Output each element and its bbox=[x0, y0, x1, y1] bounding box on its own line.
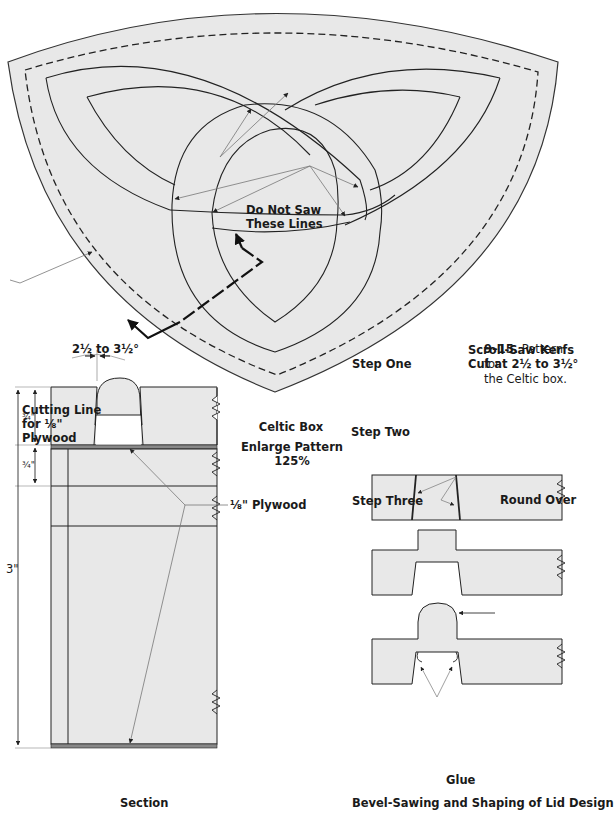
round-over-label: Round Over bbox=[500, 493, 576, 507]
do-not-saw-label: Do Not Saw These Lines bbox=[246, 203, 323, 231]
do-not-saw-line1: Do Not Saw bbox=[246, 203, 323, 217]
kerfs-label: Scroll-Saw Kerfs Cut at 2½ to 3½° bbox=[468, 343, 578, 371]
dim-top-label: ¾" bbox=[22, 410, 35, 424]
step-three-label: Step Three bbox=[352, 494, 423, 508]
plywood-label: ⅛" Plywood bbox=[230, 498, 306, 512]
cutting-line-leader bbox=[10, 252, 92, 283]
kerfs-line2: Cut at 2½ to 3½° bbox=[468, 357, 578, 371]
celtic-box-label: Celtic Box bbox=[247, 420, 335, 434]
glue-label: Glue bbox=[446, 773, 475, 787]
angle-label: 2½ to 3½° bbox=[72, 342, 139, 356]
step-one-label: Step One bbox=[352, 357, 412, 371]
dim-total-label: 3" bbox=[6, 562, 19, 576]
enlarge-line2: 125% bbox=[240, 454, 344, 468]
step-two-label: Step Two bbox=[351, 425, 410, 439]
enlarge-label: Enlarge Pattern 125% bbox=[240, 440, 344, 468]
steps-title: Bevel-Sawing and Shaping of Lid Design bbox=[352, 796, 614, 810]
cutting-line-line3: Plywood bbox=[22, 431, 101, 445]
section-title: Section bbox=[120, 796, 168, 810]
do-not-saw-line2: These Lines bbox=[246, 217, 323, 231]
enlarge-line1: Enlarge Pattern bbox=[240, 440, 344, 454]
kerfs-line1: Scroll-Saw Kerfs bbox=[468, 343, 578, 357]
caption-line2: the Celtic box. bbox=[484, 372, 577, 387]
steps-drawing bbox=[372, 475, 565, 697]
dim-mid-label: ¾" bbox=[22, 458, 35, 472]
